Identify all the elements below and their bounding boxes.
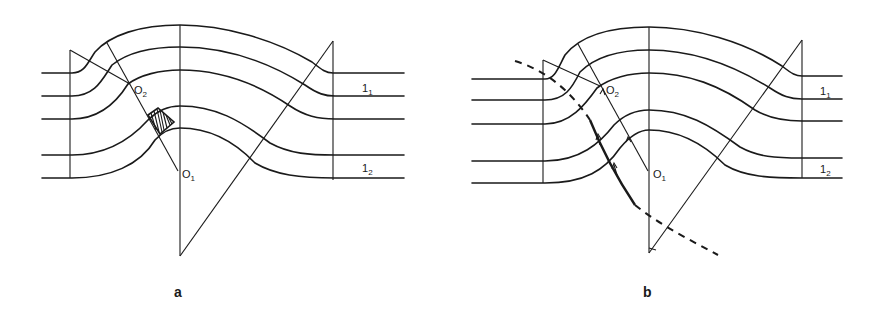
o2-o1-radial-line xyxy=(107,43,178,171)
arrow-icons xyxy=(596,89,631,175)
label-l1: 11 xyxy=(820,85,831,100)
label-l1: 11 xyxy=(362,82,373,97)
o2-o1-radial-line xyxy=(578,44,648,171)
arrow-up-icon xyxy=(600,89,605,95)
caption-a: a xyxy=(174,284,182,300)
right-diagonal-line xyxy=(180,41,333,256)
label-o2: O2 xyxy=(134,84,148,99)
panel-b: O2 O1 11 12 b xyxy=(472,27,842,300)
label-l2: 12 xyxy=(362,162,373,177)
diagram-canvas: O2 O1 11 12 a xyxy=(0,0,871,317)
label-o1: O1 xyxy=(182,168,196,183)
panel-a: O2 O1 11 12 a xyxy=(42,25,404,300)
flow-lines xyxy=(42,25,404,178)
left-radial-line xyxy=(70,50,130,84)
solid-boundary-segment xyxy=(590,120,635,205)
label-o1: O1 xyxy=(653,168,667,183)
dashed-boundary-upper xyxy=(515,61,590,120)
caption-b: b xyxy=(643,284,652,300)
label-l2: 12 xyxy=(820,163,831,178)
right-diagonal-line xyxy=(649,40,802,253)
label-o2: O2 xyxy=(606,84,620,99)
flow-lines xyxy=(472,27,842,183)
dashed-boundary-lower xyxy=(635,205,718,255)
